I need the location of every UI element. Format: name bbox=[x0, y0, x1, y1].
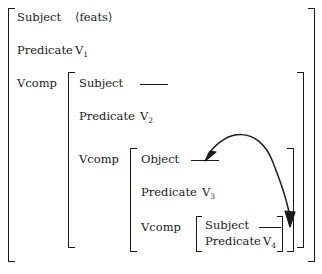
v-subscript-level-4: 4 bbox=[271, 241, 276, 250]
f-structure-diagram: Subject ⟨feats⟩ Predicate V1 Vcomp Subje… bbox=[0, 0, 322, 274]
attribute-vcomp-level-2: Vcomp bbox=[79, 154, 119, 166]
bracket-left-level-3 bbox=[130, 148, 137, 252]
bracket-left-level-1 bbox=[8, 8, 15, 262]
attribute-vcomp-level-1: Vcomp bbox=[17, 78, 57, 90]
value-feats-level-1: ⟨feats⟩ bbox=[75, 12, 112, 24]
attribute-object-level-3: Object bbox=[141, 154, 179, 166]
control-arc-path bbox=[208, 135, 290, 218]
bracket-right-level-3 bbox=[287, 148, 294, 252]
attribute-subject-level-4: Subject bbox=[205, 220, 249, 232]
value-predicate-level-2: V2 bbox=[140, 111, 153, 123]
bracket-right-level-1 bbox=[308, 8, 315, 262]
bracket-right-level-2 bbox=[297, 72, 304, 248]
attribute-predicate-level-3: Predicate bbox=[141, 187, 197, 199]
gap-line-subject-level-2 bbox=[140, 84, 168, 85]
attribute-vcomp-level-3: Vcomp bbox=[141, 222, 181, 234]
bracket-right-level-4 bbox=[277, 216, 283, 252]
value-predicate-level-3: V3 bbox=[202, 187, 215, 199]
attribute-subject-level-2: Subject bbox=[79, 78, 123, 90]
gap-line-subject-level-4 bbox=[259, 227, 281, 228]
value-predicate-level-4: V4 bbox=[263, 236, 276, 248]
v-subscript-level-3: 3 bbox=[210, 192, 215, 201]
bracket-left-level-4 bbox=[196, 216, 202, 252]
v-subscript-level-2: 2 bbox=[148, 116, 153, 125]
gap-line-object-level-3 bbox=[191, 160, 219, 161]
value-predicate-level-1: V1 bbox=[75, 45, 88, 57]
attribute-predicate-level-2: Predicate bbox=[79, 111, 135, 123]
bracket-left-level-2 bbox=[68, 72, 75, 248]
attribute-predicate-level-1: Predicate bbox=[17, 45, 73, 57]
attribute-predicate-level-4: Predicate bbox=[205, 236, 261, 248]
attribute-subject-level-1: Subject bbox=[17, 12, 61, 24]
v-subscript-level-1: 1 bbox=[83, 50, 88, 59]
